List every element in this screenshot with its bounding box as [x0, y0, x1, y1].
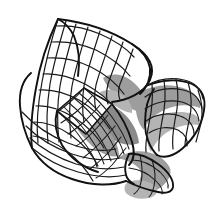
figure-canvas: Wireframe saddle surface: [0, 0, 220, 216]
surface-wireframe-illustration: [0, 0, 220, 216]
